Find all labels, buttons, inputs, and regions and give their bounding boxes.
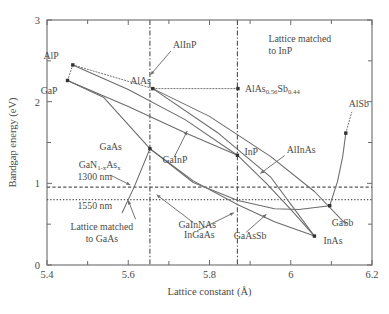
chart-canvas: 5.45.65.866.20123AlPGaPAlAsGaAsInPInAsGa… [0, 0, 389, 314]
curve-AlSb-leader [346, 112, 352, 133]
refline-label-1550-nm: 1550 nm [77, 200, 112, 211]
data-point-GaP [66, 79, 69, 82]
data-point-AlAs [151, 87, 154, 90]
curve-AlP-GaP [68, 65, 73, 81]
data-point-AlP [71, 63, 74, 66]
point-label-GaSb: GaSb [332, 217, 354, 228]
data-point-AlAsSb [236, 87, 239, 90]
annotation-GaNAs: GaN1-xAsx [79, 159, 121, 171]
y-tick-label-0: 0 [35, 260, 40, 271]
data-point-AlSb [344, 131, 347, 134]
refline-label-Lattice-matched-to-InP: Lattice matchedto InP [268, 33, 331, 56]
refline-label-Lattice-matched-to-GaAs: Lattice matchedto GaAs [70, 221, 133, 244]
x-axis-title: Lattice constant (Å) [168, 286, 252, 298]
annotation-AlInP: AlInP [173, 39, 197, 50]
x-tick-label-2: 5.8 [203, 269, 216, 280]
curve-InP-InAs [237, 155, 314, 236]
data-point-InAs [313, 234, 316, 237]
curve-GaP-GaAs [68, 80, 150, 148]
x-tick-label-0: 5.4 [40, 269, 54, 280]
y-tick-label-3: 3 [35, 15, 40, 26]
data-point-GaSb [328, 204, 331, 207]
y-axis-title: Bandgap energy (eV) [7, 97, 19, 188]
point-label-AlSb: AlSb [349, 98, 369, 109]
annotation-GaInP: GaInP [162, 154, 188, 165]
curve-AlP-InP [73, 65, 238, 155]
chart-text-labels: 5.45.65.866.20123AlPGaPAlAsGaAsInPInAsGa… [7, 15, 379, 298]
point-label-InP: InP [244, 146, 258, 157]
y-tick-label-1: 1 [35, 178, 40, 189]
point-label-AlAsSb: AlAs0.56Sb0.44 [245, 83, 300, 95]
point-label-InAs: InAs [323, 235, 342, 246]
point-label-AlP: AlP [44, 50, 60, 61]
curve-GaAs-GaNAs [122, 149, 150, 213]
data-point-GaAs [148, 147, 151, 150]
annotation-AlInAs: AlInAs [287, 144, 316, 155]
point-label-GaAs: GaAs [100, 141, 122, 152]
annotation-GaAsSb: GaAsSb [234, 230, 267, 241]
GaNAs-leader2-arrowhead [128, 200, 131, 204]
AlInP-leader [151, 51, 171, 75]
refline-label-1300-nm: 1300 nm [77, 171, 112, 182]
annotation-InGaAs: InGaAs [184, 229, 215, 240]
x-tick-label-3: 6 [288, 269, 293, 280]
bandgap-lattice-constant-chart: 5.45.65.866.20123AlPGaPAlAsGaAsInPInAsGa… [0, 0, 389, 314]
data-point-InP [236, 154, 239, 157]
curve-GaSb-AlSb [330, 133, 346, 206]
x-tick-label-4: 6.2 [365, 269, 378, 280]
x-tick-label-1: 5.6 [122, 269, 135, 280]
point-label-GaP: GaP [41, 85, 58, 96]
y-tick-label-2: 2 [35, 97, 40, 108]
point-label-AlAs: AlAs [130, 75, 151, 86]
